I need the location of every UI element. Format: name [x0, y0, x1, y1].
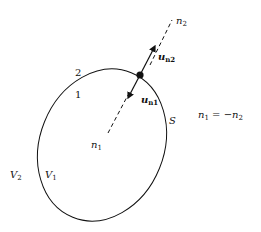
closed-surface-S — [15, 49, 188, 232]
label-surface-S: S — [169, 116, 176, 126]
label-un2: un2 — [158, 52, 175, 63]
label-un1: un1 — [141, 95, 158, 106]
surface-point — [136, 71, 143, 78]
label-n2: n2 — [176, 16, 187, 28]
normal-line-n1-dashed — [108, 95, 128, 133]
label-V1: V1 — [45, 170, 57, 182]
label-region-1: 1 — [75, 90, 81, 100]
relation-n1-equals-minus-n2: n1 = −n2 — [198, 110, 243, 122]
diagram-canvas: n2 un2 un1 2 1 S n1 V2 V1 n1 = −n2 — [0, 0, 261, 232]
label-V2: V2 — [10, 170, 22, 182]
label-region-2: 2 — [75, 68, 81, 78]
label-n1: n1 — [91, 140, 102, 152]
